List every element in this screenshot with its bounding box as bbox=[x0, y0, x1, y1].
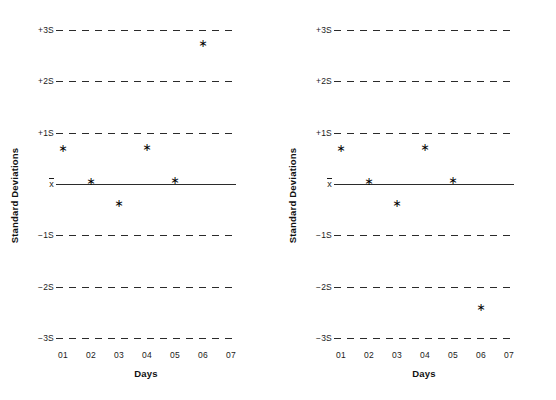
y-tick-label: +2S bbox=[14, 76, 54, 86]
x-axis-title-right: Days bbox=[334, 368, 514, 379]
control-chart-left: +3S+2S+1Sx−1S−2S−3S01020304050607∗∗∗∗∗∗ … bbox=[0, 0, 278, 400]
mean-line bbox=[334, 184, 514, 185]
control-limit-line bbox=[334, 133, 514, 134]
x-tick-label: 01 bbox=[52, 350, 74, 361]
control-limit-line bbox=[56, 133, 236, 134]
control-limit-line bbox=[334, 338, 514, 339]
data-point: ∗ bbox=[477, 303, 486, 312]
control-limit-line bbox=[56, 287, 236, 288]
control-limit-line bbox=[334, 30, 514, 31]
y-tick-label: −1S bbox=[14, 230, 54, 240]
data-point: ∗ bbox=[143, 143, 152, 152]
x-axis-title-left: Days bbox=[56, 368, 236, 379]
control-limit-line bbox=[56, 235, 236, 236]
x-tick-label: 06 bbox=[470, 350, 492, 361]
y-tick-label: +1S bbox=[14, 128, 54, 138]
y-tick-label-mean: x bbox=[14, 179, 54, 189]
x-tick-label: 04 bbox=[136, 350, 158, 361]
x-tick-label: 03 bbox=[108, 350, 130, 361]
data-point: ∗ bbox=[337, 144, 346, 153]
control-limit-line bbox=[56, 81, 236, 82]
x-tick-label: 06 bbox=[192, 350, 214, 361]
y-tick-label: −3S bbox=[14, 333, 54, 343]
data-point: ∗ bbox=[365, 177, 374, 186]
y-tick-label: −2S bbox=[14, 282, 54, 292]
data-point: ∗ bbox=[449, 176, 458, 185]
data-point: ∗ bbox=[115, 199, 124, 208]
y-tick-label: +3S bbox=[292, 25, 332, 35]
control-chart-right: +3S+2S+1Sx−1S−2S−3S01020304050607∗∗∗∗∗∗ … bbox=[278, 0, 556, 400]
y-tick-label: −2S bbox=[292, 282, 332, 292]
data-point: ∗ bbox=[171, 176, 180, 185]
control-limit-line bbox=[56, 30, 236, 31]
x-tick-label: 02 bbox=[80, 350, 102, 361]
x-tick-label: 05 bbox=[442, 350, 464, 361]
control-limit-line bbox=[56, 338, 236, 339]
plot-area-right: +3S+2S+1Sx−1S−2S−3S01020304050607∗∗∗∗∗∗ bbox=[278, 0, 556, 400]
y-tick-label: −1S bbox=[292, 230, 332, 240]
y-tick-label: +2S bbox=[292, 76, 332, 86]
y-tick-label-mean: x bbox=[292, 179, 332, 189]
plot-area-left: +3S+2S+1Sx−1S−2S−3S01020304050607∗∗∗∗∗∗ bbox=[0, 0, 278, 400]
x-tick-label: 03 bbox=[386, 350, 408, 361]
mean-line bbox=[56, 184, 236, 185]
control-limit-line bbox=[334, 287, 514, 288]
x-tick-label: 07 bbox=[498, 350, 520, 361]
y-tick-label: +1S bbox=[292, 128, 332, 138]
data-point: ∗ bbox=[421, 143, 430, 152]
y-axis-title-right: Standard Deviations bbox=[287, 136, 298, 256]
data-point: ∗ bbox=[199, 39, 208, 48]
control-limit-line bbox=[334, 235, 514, 236]
data-point: ∗ bbox=[393, 199, 402, 208]
x-tick-label: 05 bbox=[164, 350, 186, 361]
x-tick-label: 07 bbox=[220, 350, 242, 361]
x-bar-glyph: x bbox=[49, 179, 54, 189]
data-point: ∗ bbox=[87, 177, 96, 186]
data-point: ∗ bbox=[59, 144, 68, 153]
x-tick-label: 02 bbox=[358, 350, 380, 361]
x-tick-label: 04 bbox=[414, 350, 436, 361]
x-tick-label: 01 bbox=[330, 350, 352, 361]
control-limit-line bbox=[334, 81, 514, 82]
y-tick-label: +3S bbox=[14, 25, 54, 35]
y-tick-label: −3S bbox=[292, 333, 332, 343]
x-bar-glyph: x bbox=[327, 179, 332, 189]
y-axis-title-left: Standard Deviations bbox=[9, 136, 20, 256]
